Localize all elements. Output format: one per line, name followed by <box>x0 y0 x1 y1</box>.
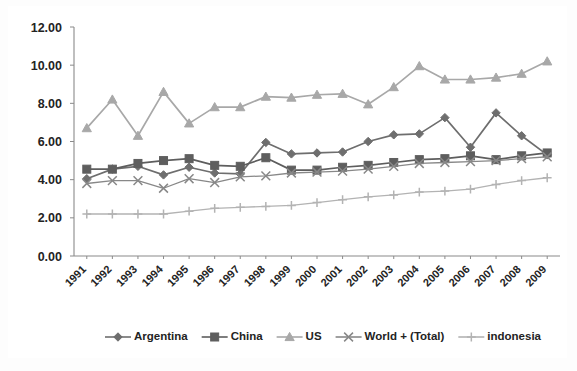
data-point-marker <box>114 333 122 341</box>
y-axis-tick-labels: 0.002.004.006.008.0010.0012.00 <box>31 21 62 264</box>
data-point-marker <box>236 203 245 212</box>
data-point-marker <box>185 163 193 171</box>
legend-item-label: World + (Total) <box>365 330 445 342</box>
data-point-marker <box>159 210 168 219</box>
data-point-marker <box>390 131 398 139</box>
data-point-marker <box>210 204 219 213</box>
chart-series <box>82 173 551 218</box>
x-axis-tick-label: 1994 <box>139 262 165 288</box>
legend-item-label: US <box>306 330 322 342</box>
legend-item[interactable]: indonesia <box>458 330 541 342</box>
data-point-marker <box>313 149 321 157</box>
data-point-marker <box>338 148 346 156</box>
data-point-marker <box>389 191 398 200</box>
x-axis-tick-label: 1992 <box>88 263 114 289</box>
data-point-marker <box>466 185 475 194</box>
line-chart-svg: 0.002.004.006.008.0010.0012.00 199119921… <box>0 0 577 371</box>
legend-item[interactable]: Argentina <box>105 330 188 342</box>
data-point-marker <box>134 159 142 167</box>
y-axis-tick-label: 8.00 <box>38 97 62 111</box>
data-point-marker <box>543 57 552 65</box>
legend-item[interactable]: World + (Total) <box>336 330 445 342</box>
data-point-marker <box>210 169 218 177</box>
x-axis-tick-label: 2000 <box>293 263 319 289</box>
x-axis-tick-label: 2005 <box>421 263 447 289</box>
data-point-marker <box>262 154 270 162</box>
data-point-marker <box>440 187 449 196</box>
data-point-marker <box>211 333 219 341</box>
chart-plot-area: 0.002.004.006.008.0010.0012.00 199119921… <box>0 0 577 371</box>
series-line <box>87 178 547 214</box>
x-axis-tick-label: 2006 <box>446 263 472 289</box>
x-axis-tick-label: 1996 <box>190 263 216 289</box>
data-point-marker <box>415 188 424 197</box>
legend-item[interactable]: China <box>202 330 264 342</box>
data-point-marker <box>364 192 373 201</box>
x-axis-tick-label: 2003 <box>369 263 395 289</box>
y-axis-tickmarks <box>70 27 74 256</box>
data-point-marker <box>159 87 168 95</box>
chart-figure: 0.002.004.006.008.0010.0012.00 199119921… <box>0 0 577 371</box>
data-point-marker <box>261 202 270 211</box>
x-axis-tick-label: 1998 <box>241 263 267 289</box>
chart-series-group <box>82 57 552 219</box>
data-point-marker <box>108 165 116 173</box>
x-axis-tick-label: 1999 <box>267 263 293 289</box>
data-point-marker <box>211 161 219 169</box>
data-point-marker <box>82 210 91 219</box>
chart-series <box>82 57 552 140</box>
y-axis-tick-label: 2.00 <box>38 211 62 225</box>
x-axis-tick-label: 2001 <box>318 263 344 289</box>
data-point-marker <box>338 195 347 204</box>
chart-legend: ArgentinaChinaUSWorld + (Total)indonesia <box>105 330 542 342</box>
y-axis-tick-label: 4.00 <box>38 173 62 187</box>
data-point-marker <box>517 176 526 185</box>
y-axis-tick-label: 10.00 <box>31 59 62 73</box>
data-point-marker <box>492 180 501 189</box>
data-point-marker <box>185 155 193 163</box>
data-point-marker <box>313 198 322 207</box>
x-axis-tick-label: 1995 <box>165 263 191 289</box>
data-point-marker <box>543 173 552 182</box>
legend-item-label: indonesia <box>487 330 541 342</box>
x-axis-tick-label: 1997 <box>216 263 242 289</box>
data-point-marker <box>160 157 168 165</box>
data-point-marker <box>159 171 167 179</box>
data-point-marker <box>83 175 91 183</box>
y-axis-tick-label: 0.00 <box>38 250 62 264</box>
x-axis-tick-label: 2004 <box>395 262 421 288</box>
legend-item-label: China <box>231 330 264 342</box>
data-point-marker <box>108 210 117 219</box>
x-axis-tick-label: 2008 <box>497 263 523 289</box>
data-point-marker <box>134 210 143 219</box>
data-point-marker <box>415 62 424 70</box>
x-axis-tick-label: 2009 <box>523 263 549 289</box>
x-axis-tick-label: 2002 <box>344 263 370 289</box>
data-point-marker <box>159 184 168 193</box>
chart-axes <box>74 27 560 256</box>
data-point-marker <box>364 137 372 145</box>
data-point-marker <box>415 130 423 138</box>
data-point-marker <box>287 201 296 210</box>
x-axis-tick-labels: 1991199219931994199519961997199819992000… <box>62 256 548 289</box>
x-axis-tick-label: 1993 <box>114 263 140 289</box>
data-point-marker <box>287 150 295 158</box>
data-point-marker <box>236 162 244 170</box>
data-point-marker <box>185 207 194 216</box>
data-point-marker <box>108 95 117 103</box>
data-point-marker <box>517 69 526 77</box>
legend-item[interactable]: US <box>277 330 322 342</box>
y-axis-tick-label: 12.00 <box>31 21 62 35</box>
x-axis-tick-label: 1991 <box>62 263 88 289</box>
data-point-marker <box>83 165 91 173</box>
data-point-marker <box>467 333 476 342</box>
x-axis-tick-label: 2007 <box>472 263 498 289</box>
y-axis-tick-label: 6.00 <box>38 135 62 149</box>
legend-item-label: Argentina <box>134 330 188 342</box>
